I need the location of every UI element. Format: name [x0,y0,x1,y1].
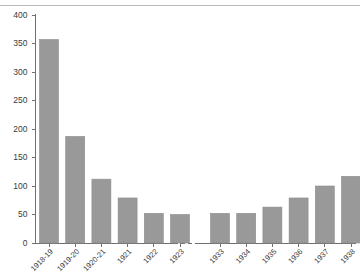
bar [237,213,256,243]
chart-figure: 050100150200250300350400 1918-191919-201… [0,0,360,280]
bar [66,136,85,243]
x-axis-tick-label: 1937 [312,247,330,265]
bar [144,213,163,243]
x-axis-tick-label: 1920-21 [81,247,107,273]
bar-chart: 050100150200250300350400 1918-191919-201… [0,0,360,280]
y-axis-tick-marks [32,15,36,243]
bar [211,213,230,243]
bar [342,176,360,243]
x-axis-tick-label: 1936 [286,247,304,265]
x-axis-tick-label: 1921 [115,247,133,265]
y-axis-tick-label: 250 [13,95,27,105]
x-axis-tick-label: 1935 [260,247,278,265]
bar [263,207,282,243]
y-axis-tick-label: 150 [13,152,27,162]
bar [92,179,111,243]
y-axis-tick-label: 50 [18,209,28,219]
y-axis-tick-label: 100 [13,181,27,191]
x-axis-tick-label: 1933 [208,247,226,265]
y-axis-tick-label: 0 [23,238,28,248]
bar-series [40,40,360,243]
y-axis-tick-label: 400 [13,10,27,20]
x-axis-tick-label: 1918-19 [29,247,55,273]
y-axis-tick-label: 200 [13,124,27,134]
bar [118,198,137,243]
y-axis-tick-label: 300 [13,67,27,77]
x-axis-tick-label: 1922 [141,247,159,265]
bar [40,40,59,243]
bar [315,186,334,243]
bar [171,215,190,244]
x-axis-tick-labels: 1918-191919-201920-211921192219231933193… [29,247,357,273]
bar [289,198,308,243]
x-axis-tick-marks [49,243,351,247]
y-axis-tick-labels: 050100150200250300350400 [13,10,27,248]
x-axis-tick-label: 1919-20 [55,247,81,273]
x-axis-tick-label: 1923 [168,247,186,265]
x-axis-tick-label: 1938 [339,247,357,265]
y-axis-tick-label: 350 [13,38,27,48]
x-axis-tick-label: 1934 [234,247,252,265]
